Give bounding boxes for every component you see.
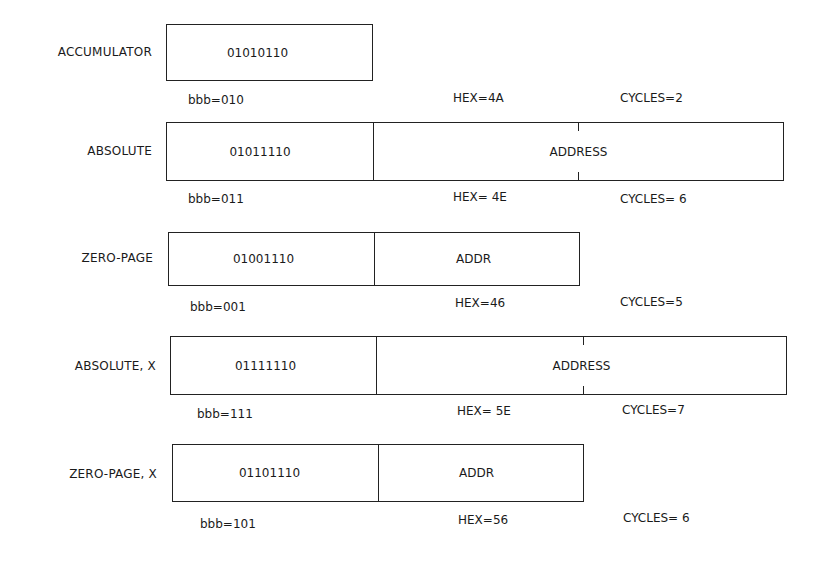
byte-boundary-tick <box>578 172 579 180</box>
bbb-value: bbb=111 <box>197 407 253 421</box>
addressing-mode-label: ZERO-PAGE <box>3 251 153 265</box>
bbb-value: bbb=011 <box>188 192 244 206</box>
addr-field: ADDR <box>378 445 583 501</box>
opcode-bits: 01111110 <box>171 337 376 394</box>
addressing-mode-label: ABSOLUTE, X <box>6 359 156 373</box>
addressing-mode-label: ABSOLUTE <box>2 144 152 158</box>
byte-boundary-tick <box>583 386 584 394</box>
bbb-value: bbb=101 <box>200 517 256 531</box>
instruction-box: 01111110 ADDRESS <box>170 336 787 395</box>
addressing-mode-label: ACCUMULATOR <box>2 45 152 59</box>
byte-boundary-tick <box>583 337 584 345</box>
cycles-value: CYCLES= 6 <box>620 192 687 206</box>
cycles-value: CYCLES=2 <box>620 91 683 105</box>
instruction-box: 01010110 <box>166 24 373 81</box>
addr-field: ADDR <box>374 233 579 285</box>
addressing-mode-label: ZERO-PAGE, X <box>7 467 157 481</box>
hex-value: HEX= 5E <box>457 404 511 418</box>
bbb-value: bbb=010 <box>188 93 244 107</box>
address-field: ADDRESS <box>376 337 786 394</box>
cycles-value: CYCLES=5 <box>620 295 683 309</box>
opcode-bits: 01011110 <box>167 123 373 180</box>
hex-value: HEX=56 <box>458 513 508 527</box>
opcode-bits: 01010110 <box>167 25 372 80</box>
opcode-bits: 01101110 <box>173 445 378 501</box>
bbb-value: bbb=001 <box>190 300 246 314</box>
cycles-value: CYCLES=7 <box>622 403 685 417</box>
cycles-value: CYCLES= 6 <box>623 511 690 525</box>
instruction-box: 01101110 ADDR <box>172 444 584 502</box>
hex-value: HEX= 4E <box>453 190 507 204</box>
instruction-box: 01011110 ADDRESS <box>166 122 784 181</box>
byte-boundary-tick <box>578 123 579 131</box>
hex-value: HEX=4A <box>453 91 504 105</box>
hex-value: HEX=46 <box>455 296 505 310</box>
opcode-bits: 01001110 <box>169 233 374 285</box>
instruction-box: 01001110 ADDR <box>168 232 580 286</box>
